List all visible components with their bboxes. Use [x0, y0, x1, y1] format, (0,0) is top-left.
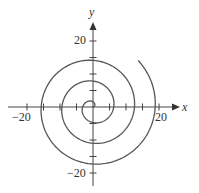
spiral-curve	[41, 60, 155, 164]
y-axis-label: y	[88, 5, 95, 19]
y-axis-arrow-icon	[90, 22, 97, 30]
y-tick-label-20: 20	[74, 33, 86, 47]
axes	[8, 28, 174, 186]
x-tick-label-neg20: −20	[12, 110, 31, 124]
x-tick-label-20: 20	[155, 110, 167, 124]
x-axis-arrow-icon	[172, 104, 180, 111]
y-tick-label-neg20: −20	[67, 166, 86, 180]
spiral-chart: x y −20 20 20 −20	[0, 0, 199, 193]
x-axis-label: x	[181, 100, 188, 114]
